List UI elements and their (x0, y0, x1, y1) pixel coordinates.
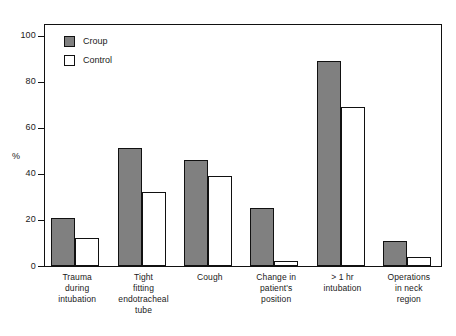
y-axis-title: % (12, 152, 20, 161)
bar-croup-5 (383, 241, 407, 266)
legend-item-control: Control (64, 55, 112, 66)
bar-control-1 (142, 192, 166, 266)
legend-label: Croup (83, 37, 108, 46)
legend-swatch-icon-control (64, 55, 75, 66)
bar-croup-3 (250, 208, 274, 266)
bar-croup-2 (184, 160, 208, 266)
y-tick-20 (38, 220, 44, 221)
bar-control-0 (75, 238, 99, 266)
x-axis-label-line: fitting (104, 283, 182, 294)
bar-control-5 (407, 257, 431, 266)
y-tick-label-80: 80 (8, 77, 36, 86)
bar-chart: % 020406080100 TraumaduringintubationTig… (0, 0, 456, 336)
y-tick-label-100: 100 (8, 31, 36, 40)
x-axis-label-line: region (370, 294, 448, 305)
x-axis-label-line: in neck (370, 283, 448, 294)
bar-control-2 (208, 176, 232, 266)
bar-control-4 (341, 107, 365, 266)
y-tick-label-40: 40 (8, 169, 36, 178)
x-axis-label-line: position (237, 294, 315, 305)
y-tick-label-0: 0 (8, 262, 36, 271)
y-tick-label-20: 20 (8, 215, 36, 224)
chart-legend: CroupControl (64, 36, 112, 74)
legend-item-croup: Croup (64, 36, 112, 47)
y-tick-80 (38, 82, 44, 83)
y-tick-label-60: 60 (8, 123, 36, 132)
y-tick-100 (38, 36, 44, 37)
bar-control-3 (274, 261, 298, 266)
y-tick-60 (38, 128, 44, 129)
y-tick-0 (38, 266, 44, 267)
x-axis-group-label-5: Operationsin neckregion (370, 272, 448, 305)
legend-swatch-icon-croup (64, 36, 75, 47)
x-axis-baseline (44, 266, 442, 267)
x-axis-label-line: Operations (370, 272, 448, 283)
bar-croup-1 (118, 148, 142, 266)
x-axis-label-line: endotracheal (104, 294, 182, 305)
y-tick-40 (38, 174, 44, 175)
legend-label: Control (83, 56, 112, 65)
x-axis-label-line: tube (104, 305, 182, 316)
bar-croup-4 (317, 61, 341, 266)
bar-croup-0 (51, 218, 75, 266)
